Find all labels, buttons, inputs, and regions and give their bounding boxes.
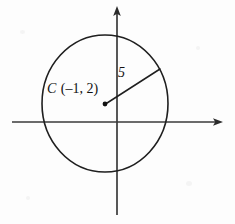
center-label-coords: (–1, 2)	[57, 81, 98, 96]
geometry-figure: C (–1, 2) 5	[0, 0, 235, 224]
center-label-symbol: C	[47, 81, 57, 96]
figure-canvas	[0, 0, 235, 224]
radius-label: 5	[118, 66, 125, 80]
radius-segment	[106, 69, 161, 104]
center-label: C (–1, 2)	[47, 82, 98, 96]
center-point-dot	[103, 102, 108, 107]
